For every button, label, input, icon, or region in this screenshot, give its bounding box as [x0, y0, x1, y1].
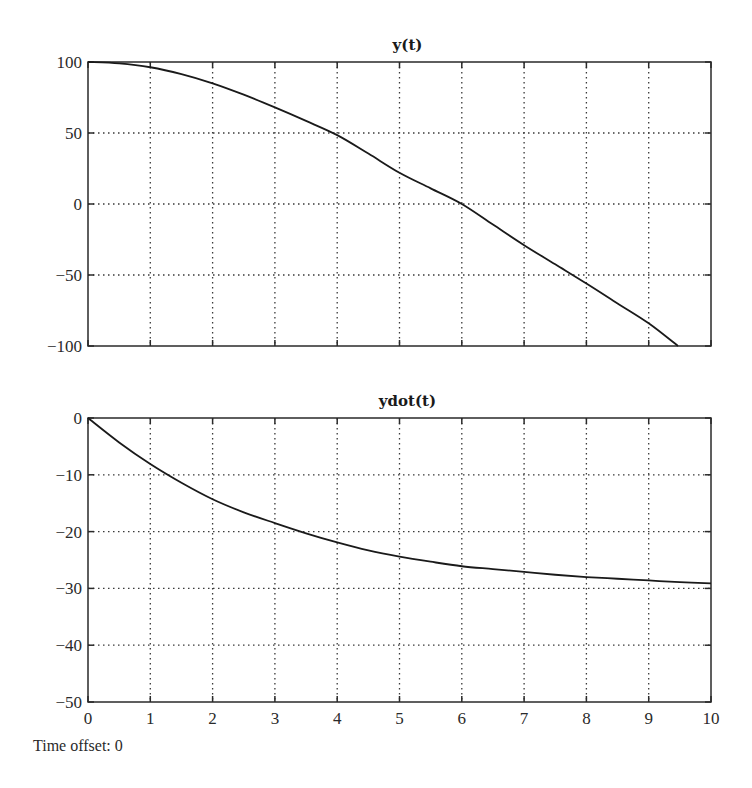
y-tick-label: −50: [55, 266, 82, 285]
y-tick-label: −40: [55, 636, 82, 655]
y-tick-label: −10: [55, 466, 82, 485]
plot-title: ydot(t): [378, 392, 436, 410]
x-tick-label: 4: [333, 709, 342, 728]
y-tick-label: −50: [55, 693, 82, 712]
x-tick-label: 3: [271, 709, 280, 728]
y-tick-label: 100: [57, 53, 83, 72]
x-tick-label: 9: [644, 709, 653, 728]
x-tick-label: 5: [395, 709, 404, 728]
x-tick-label: 0: [84, 709, 93, 728]
y-tick-label: −100: [47, 337, 82, 356]
y-tick-label: 50: [65, 124, 82, 143]
x-tick-label: 10: [703, 709, 720, 728]
x-tick-label: 7: [520, 709, 529, 728]
x-tick-label: 2: [208, 709, 217, 728]
y-tick-label: −30: [55, 579, 82, 598]
time-offset-label: Time offset: 0: [33, 737, 123, 755]
y-tick-label: −20: [55, 523, 82, 542]
plot-title: y(t): [392, 36, 423, 54]
y-tick-label: 0: [74, 409, 83, 428]
y-tick-label: 0: [74, 195, 83, 214]
x-tick-label: 8: [582, 709, 591, 728]
figure: y(t)100500−50−100 ydot(t)0−10−20−30−40−5…: [0, 0, 752, 788]
plot-y-of-t: y(t)100500−50−100: [47, 36, 711, 356]
x-tick-label: 6: [458, 709, 467, 728]
plot-ydot-of-t: ydot(t)0−10−20−30−40−50012345678910: [55, 392, 719, 728]
x-tick-label: 1: [146, 709, 155, 728]
